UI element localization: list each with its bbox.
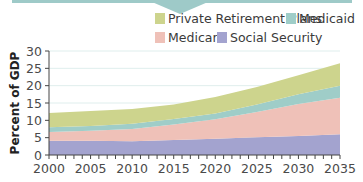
- y-tick-label: 25: [26, 61, 42, 76]
- x-tick-label: 2005: [75, 161, 107, 176]
- x-tick-label: 2035: [324, 161, 356, 176]
- y-tick-label: 15: [26, 96, 42, 111]
- plot-areas: [49, 63, 340, 155]
- stacked-area-chart: Private Retirement Plans Medicaid Medica…: [0, 0, 363, 182]
- legend-item-private-retirement-plans: Private Retirement Plans: [155, 11, 322, 26]
- x-tick-label: 2030: [283, 161, 315, 176]
- x-tick-label: 2020: [199, 161, 231, 176]
- y-tick-label: 10: [26, 113, 42, 128]
- legend-item-medicare: Medicare: [155, 30, 225, 45]
- legend-swatch: [155, 32, 165, 43]
- y-tick-label: 30: [26, 44, 42, 59]
- y-axis-title: Percent of GDP: [8, 51, 22, 154]
- legend-item-social-security: Social Security: [217, 30, 323, 45]
- legend: Private Retirement Plans Medicaid Medica…: [155, 11, 355, 45]
- legend-swatch: [286, 13, 296, 24]
- x-tick-label: 2010: [116, 161, 148, 176]
- legend-swatch: [155, 13, 165, 24]
- x-tick-label: 2015: [158, 161, 190, 176]
- legend-label: Medicaid: [299, 11, 355, 26]
- y-tick-label: 5: [34, 130, 42, 145]
- legend-swatch: [217, 32, 227, 43]
- y-tick-label: 20: [26, 78, 42, 93]
- x-tick-label: 2025: [241, 161, 273, 176]
- legend-label: Social Security: [230, 30, 323, 45]
- x-tick-label: 2000: [33, 161, 65, 176]
- legend-label: Medicare: [168, 30, 225, 45]
- x-axis-ticks: 20002005201020152020202520302035: [33, 155, 356, 176]
- y-axis-ticks: 051015202530: [26, 44, 49, 163]
